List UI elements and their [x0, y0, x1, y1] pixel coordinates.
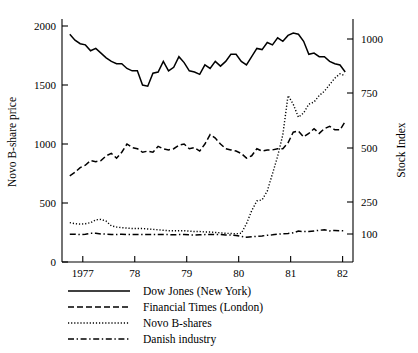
left-axis-ticks — [62, 26, 68, 262]
bottom-tick-label-79: 79 — [181, 267, 193, 279]
legend-label-dow-jones-new-york: Dow Jones (New York) — [143, 285, 251, 298]
series-group — [70, 33, 345, 237]
series-line-danish-industry — [70, 230, 345, 237]
left-tick-label-500: 500 — [40, 197, 57, 209]
legend-label-novo-b-shares: Novo B-shares — [143, 317, 212, 329]
left-tick-label-2000: 2000 — [34, 20, 57, 32]
legend-label-financial-times-london: Financial Times (London) — [143, 301, 263, 314]
right-axis-ticks — [347, 39, 353, 234]
bottom-tick-label-1977: 1977 — [72, 267, 95, 279]
left-tick-label-1500: 1500 — [34, 79, 57, 91]
bottom-tick-label-82: 82 — [337, 267, 348, 279]
left-tick-label-0: 0 — [51, 256, 57, 268]
right-tick-label-1000: 1000 — [361, 33, 384, 45]
legend-label-danish-industry: Danish industry — [143, 333, 216, 346]
bottom-axis-ticks — [83, 256, 343, 262]
right-tick-label-100: 100 — [361, 228, 378, 240]
series-line-dow-jones-new-york — [70, 33, 345, 86]
series-line-financial-times-london — [70, 122, 345, 176]
right-tick-label-750: 750 — [361, 87, 378, 99]
left-tick-label-1000: 1000 — [34, 138, 57, 150]
plot-frame — [62, 19, 353, 262]
left-axis-tick-labels: 0 500 1000 1500 2000 — [34, 20, 57, 268]
bottom-axis-tick-labels: 19777879808182 — [72, 267, 348, 279]
right-tick-label-250: 250 — [361, 196, 378, 208]
bottom-tick-label-78: 78 — [129, 267, 141, 279]
legend: Dow Jones (New York)Financial Times (Lon… — [68, 285, 263, 346]
right-tick-label-500: 500 — [361, 142, 378, 154]
bottom-tick-label-80: 80 — [233, 267, 245, 279]
stock-index-line-chart: 0 500 1000 1500 2000 Novo B-share price … — [0, 0, 418, 353]
right-axis-title: Stock Index — [395, 122, 407, 178]
right-axis-tick-labels: 100 250 500 750 1000 — [361, 33, 384, 240]
left-axis-title: Novo B-share price — [6, 97, 19, 187]
bottom-tick-label-81: 81 — [285, 267, 296, 279]
